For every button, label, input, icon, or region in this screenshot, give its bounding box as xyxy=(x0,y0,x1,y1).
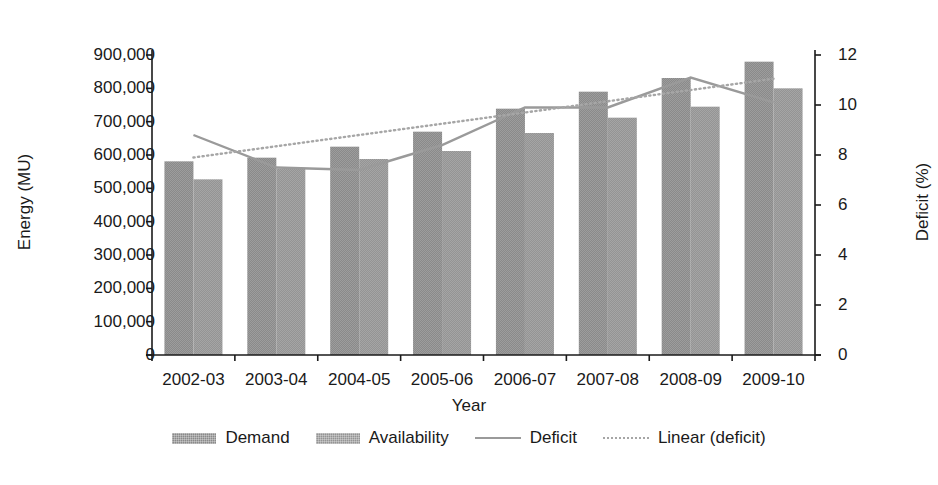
bar-availability-2008-09 xyxy=(691,107,720,355)
bar-availability-2009-10 xyxy=(774,88,803,355)
legend-swatch-line-dotted-icon xyxy=(603,437,649,439)
legend-swatch-bar-dark-icon xyxy=(172,433,216,444)
bars-layer xyxy=(164,62,802,355)
bar-demand-2004-05 xyxy=(330,147,359,355)
bar-demand-2006-07 xyxy=(496,109,525,355)
legend-item-deficit[interactable]: Deficit xyxy=(475,428,577,448)
bar-demand-2008-09 xyxy=(662,78,691,355)
bar-demand-2005-06 xyxy=(413,132,442,355)
bar-availability-2006-07 xyxy=(525,133,554,355)
plot-area xyxy=(0,0,938,485)
legend-label: Deficit xyxy=(530,428,577,448)
legend-label: Availability xyxy=(369,428,449,448)
chart-legend: DemandAvailabilityDeficitLinear (deficit… xyxy=(0,428,938,448)
legend-item-availability[interactable]: Availability xyxy=(316,428,449,448)
bar-availability-2003-04 xyxy=(276,169,305,355)
axes-layer xyxy=(146,50,821,361)
bar-availability-2002-03 xyxy=(193,179,222,355)
bar-demand-2009-10 xyxy=(745,62,774,355)
legend-item-demand[interactable]: Demand xyxy=(172,428,289,448)
legend-swatch-bar-light-icon xyxy=(316,433,360,444)
legend-item-linear-deficit[interactable]: Linear (deficit) xyxy=(603,428,766,448)
energy-deficit-chart: Energy (MU) Deficit (%) Year 0100,000200… xyxy=(0,0,938,485)
bar-demand-2002-03 xyxy=(164,161,193,355)
legend-swatch-line-solid-icon xyxy=(475,437,521,439)
legend-label: Linear (deficit) xyxy=(658,428,766,448)
legend-label: Demand xyxy=(225,428,289,448)
bar-availability-2004-05 xyxy=(359,159,388,355)
bar-demand-2003-04 xyxy=(247,158,276,355)
bar-demand-2007-08 xyxy=(579,92,608,355)
bar-availability-2007-08 xyxy=(608,118,637,355)
bar-availability-2005-06 xyxy=(442,151,471,355)
